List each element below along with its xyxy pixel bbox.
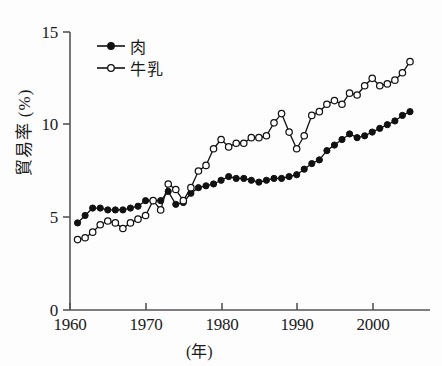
data-point — [248, 177, 254, 183]
data-point — [309, 112, 315, 118]
data-point — [74, 236, 80, 242]
data-point — [241, 140, 247, 146]
data-point — [112, 220, 118, 226]
data-point — [316, 108, 322, 114]
data-point — [233, 175, 239, 181]
data-point — [324, 148, 330, 154]
data-point — [324, 101, 330, 107]
data-point — [226, 173, 232, 179]
data-point — [271, 175, 277, 181]
data-point — [97, 222, 103, 228]
legend-entry-meat[interactable]: 肉 — [96, 34, 147, 58]
data-point — [392, 77, 398, 83]
data-point — [150, 197, 156, 203]
x-axis-ticks — [70, 303, 373, 310]
data-point — [309, 160, 315, 166]
legend-label-meat: 肉 — [130, 34, 147, 58]
data-point — [165, 181, 171, 187]
data-point — [361, 83, 367, 89]
data-point — [354, 135, 360, 141]
data-point — [286, 129, 292, 135]
data-point — [188, 184, 194, 190]
data-point — [203, 162, 209, 168]
data-point — [105, 218, 111, 224]
data-point — [331, 97, 337, 103]
data-point — [135, 216, 141, 222]
data-point — [195, 185, 201, 191]
data-point — [135, 203, 141, 209]
data-point — [120, 207, 126, 213]
y-axis-ticks — [63, 32, 70, 310]
data-point — [339, 136, 345, 142]
series-line — [78, 62, 410, 240]
data-point — [82, 212, 88, 218]
data-point — [248, 134, 254, 140]
data-point — [120, 225, 126, 231]
legend-entry-milk[interactable]: 牛乳 — [96, 56, 163, 80]
data-point — [377, 125, 383, 131]
data-point — [127, 220, 133, 226]
data-point — [203, 183, 209, 189]
data-point — [173, 201, 179, 207]
series-milk — [74, 58, 413, 242]
data-point — [90, 205, 96, 211]
x-tick-label-1980: 1980 — [190, 316, 254, 333]
data-point — [278, 110, 284, 116]
chart-plot-area — [0, 0, 442, 366]
data-point — [157, 207, 163, 213]
x-tick-label-1960: 1960 — [38, 316, 102, 333]
data-point — [346, 90, 352, 96]
data-point — [127, 205, 133, 211]
data-point — [399, 112, 405, 118]
data-point — [294, 172, 300, 178]
data-point — [142, 198, 148, 204]
data-point — [218, 177, 224, 183]
data-point — [399, 70, 405, 76]
y-axis-label: 貿易率 (%) — [10, 73, 35, 193]
data-point — [407, 58, 413, 64]
series-meat — [74, 109, 413, 226]
data-point — [331, 142, 337, 148]
data-point — [301, 166, 307, 172]
data-point — [105, 207, 111, 213]
data-point — [173, 186, 179, 192]
chart-series-layer — [74, 58, 413, 242]
data-point — [392, 118, 398, 124]
data-point — [384, 81, 390, 87]
data-point — [210, 181, 216, 187]
data-point — [377, 83, 383, 89]
data-point — [339, 101, 345, 107]
y-tick-label-15: 15 — [26, 24, 58, 41]
data-point — [301, 133, 307, 139]
y-tick-label-5: 5 — [26, 209, 58, 226]
data-point — [225, 144, 231, 150]
data-point — [97, 205, 103, 211]
x-tick-label-1990: 1990 — [265, 316, 329, 333]
x-tick-label-2000: 2000 — [341, 316, 405, 333]
data-point — [407, 109, 413, 115]
data-point — [218, 136, 224, 142]
data-point — [210, 146, 216, 152]
data-point — [316, 157, 322, 163]
data-point — [369, 75, 375, 81]
data-point — [82, 235, 88, 241]
data-point — [263, 177, 269, 183]
data-point — [74, 220, 80, 226]
data-point — [346, 131, 352, 137]
data-point — [271, 120, 277, 126]
data-point — [112, 207, 118, 213]
x-tick-label-1970: 1970 — [114, 316, 178, 333]
open-circle-marker-icon — [96, 62, 126, 74]
data-point — [278, 175, 284, 181]
data-point — [256, 179, 262, 185]
filled-circle-marker-icon — [96, 40, 126, 52]
data-point — [362, 133, 368, 139]
data-point — [89, 229, 95, 235]
data-point — [293, 146, 299, 152]
data-point — [233, 140, 239, 146]
data-point — [263, 133, 269, 139]
data-point — [369, 129, 375, 135]
data-point — [286, 173, 292, 179]
chart-figure: 15 10 5 0 1960 1970 1980 1990 2000 貿易率 (… — [0, 0, 442, 366]
data-point — [142, 212, 148, 218]
